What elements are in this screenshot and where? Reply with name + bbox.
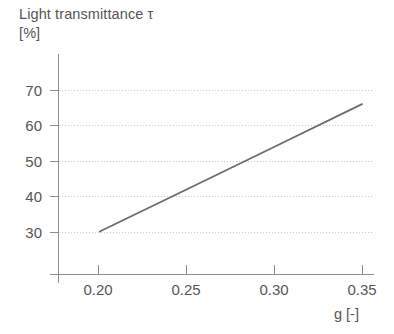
y-tick-mark-40 <box>50 196 59 197</box>
x-tick-label-0.30: 0.30 <box>244 282 304 297</box>
gridline-40 <box>59 196 374 197</box>
x-tick-label-0.20: 0.20 <box>68 282 128 297</box>
y-tick-mark-60 <box>50 125 59 126</box>
y-tick-label-70: 70 <box>0 83 42 98</box>
y-tick-label-60: 60 <box>0 118 42 133</box>
x-tick-mark-0.35 <box>362 265 363 274</box>
chart-figure: Light transmittance τ [%] 70 60 50 40 30… <box>0 0 394 334</box>
y-tick-label-30: 30 <box>0 225 42 240</box>
x-tick-label-0.35: 0.35 <box>332 282 392 297</box>
y-tick-mark-70 <box>50 90 59 91</box>
y-tick-label-40: 40 <box>0 189 42 204</box>
x-axis-title: g [-] <box>334 305 359 324</box>
x-tick-mark-0.20 <box>98 265 99 274</box>
y-axis-line <box>58 54 59 283</box>
gridline-30 <box>59 232 374 233</box>
gridline-50 <box>59 161 374 162</box>
gridline-70 <box>59 90 374 91</box>
y-tick-label-50: 50 <box>0 154 42 169</box>
plot-area: 70 60 50 40 30 0.20 0.25 0.30 0.35 <box>0 0 394 334</box>
x-tick-mark-0.25 <box>186 265 187 274</box>
y-tick-mark-50 <box>50 161 59 162</box>
x-tick-mark-0.30 <box>274 265 275 274</box>
x-tick-label-0.25: 0.25 <box>156 282 216 297</box>
gridline-60 <box>59 125 374 126</box>
y-tick-mark-30 <box>50 232 59 233</box>
